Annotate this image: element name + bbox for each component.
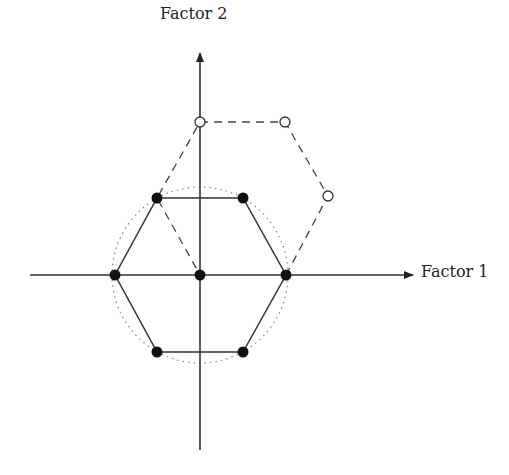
open-point — [280, 117, 290, 127]
filled-point — [195, 270, 206, 281]
filled-point — [238, 193, 249, 204]
diagram-canvas: Factor 2 Factor 1 — [0, 0, 509, 475]
filled-point — [152, 347, 163, 358]
y-axis-label: Factor 2 — [160, 4, 228, 23]
open-point — [195, 117, 205, 127]
x-axis-label: Factor 1 — [421, 262, 489, 281]
filled-point — [110, 270, 121, 281]
hexagon-design-diagram — [0, 0, 509, 475]
filled-point — [238, 347, 249, 358]
open-point — [323, 191, 333, 201]
filled-point — [281, 270, 292, 281]
filled-point — [152, 193, 163, 204]
